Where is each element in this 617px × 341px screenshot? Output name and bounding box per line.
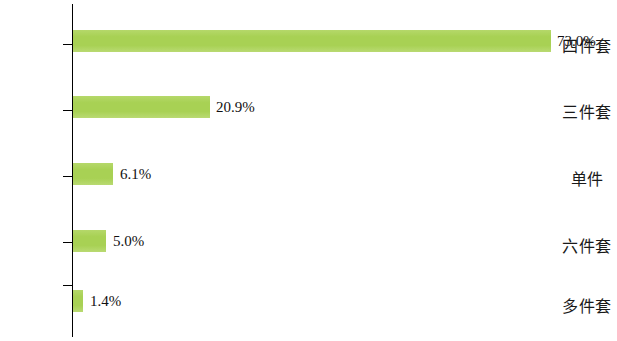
bar-row-4: 1.4% — [73, 290, 273, 312]
bar-row-1: 20.9% — [73, 96, 373, 118]
bar-row-3: 5.0% — [73, 230, 273, 252]
axis-tick-3 — [63, 242, 72, 243]
bar-value-2: 6.1% — [120, 166, 151, 183]
axis-tick-4 — [63, 285, 72, 286]
bar-value-0: 73.0% — [557, 33, 596, 50]
axis-tick-1 — [63, 110, 72, 111]
bar-value-3: 5.0% — [113, 233, 144, 250]
bar-2 — [73, 163, 113, 185]
bar-value-1: 20.9% — [216, 99, 255, 116]
bar-4 — [73, 290, 83, 312]
category-label-2: 单件 — [557, 166, 617, 190]
bar-0 — [73, 30, 551, 52]
axis-tick-0 — [63, 44, 72, 45]
category-label-1: 三件套 — [557, 99, 617, 123]
horizontal-bar-chart: 四件套 三件套 单件 六件套 多件套 73.0% 20.9% 6.1% 5.0%… — [0, 0, 617, 341]
bar-1 — [73, 96, 210, 118]
axis-tick-2 — [63, 176, 72, 177]
category-label-3: 六件套 — [557, 233, 617, 257]
bar-row-2: 6.1% — [73, 163, 273, 185]
category-label-4: 多件套 — [557, 293, 617, 317]
bar-3 — [73, 230, 106, 252]
bar-row-0: 73.0% — [73, 30, 617, 52]
bar-value-4: 1.4% — [90, 293, 121, 310]
